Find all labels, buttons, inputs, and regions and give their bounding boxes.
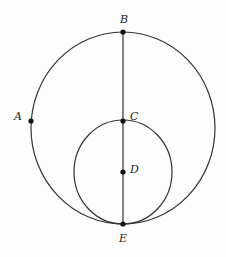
point-a-dot (28, 118, 33, 123)
point-c-dot (120, 118, 125, 123)
point-e-dot (120, 221, 125, 226)
point-d-dot (120, 169, 125, 174)
label-b: B (120, 14, 128, 25)
label-e: E (119, 233, 127, 244)
label-d: D (130, 164, 139, 175)
point-b-dot (120, 29, 125, 34)
geometry-diagram: A B C D E (0, 0, 226, 257)
label-c: C (130, 111, 138, 122)
diagram-svg (0, 0, 226, 257)
label-a: A (14, 111, 22, 122)
